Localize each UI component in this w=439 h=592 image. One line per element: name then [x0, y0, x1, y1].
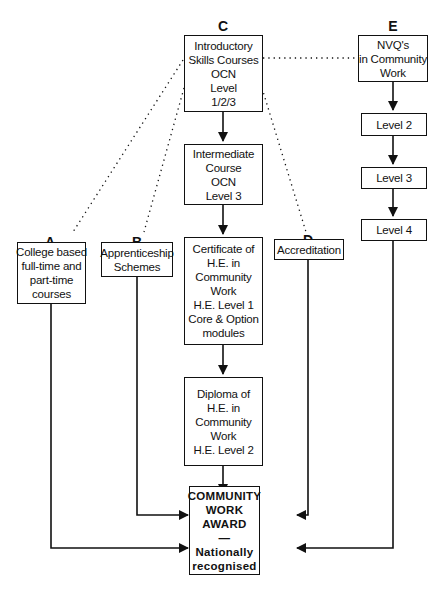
box-introductory-skills-courses: Introductory Skills Courses OCN Level 1/…	[184, 35, 263, 112]
box-nvq-level-3: Level 3	[361, 167, 427, 189]
box-diploma-he: Diploma of H.E. in Community Work H.E. L…	[184, 377, 263, 466]
column-label-e: E	[383, 18, 403, 34]
box-accreditation: Accreditation	[274, 239, 344, 260]
box-apprenticeship-schemes: Apprenticeship Schemes	[101, 242, 173, 277]
box-college-courses: College based full-time and part-time co…	[17, 242, 86, 304]
box-nvq-level-4: Level 4	[361, 219, 427, 241]
column-label-c: C	[213, 18, 233, 34]
box-intermediate-course: Intermediate Course OCN Level 3	[184, 144, 263, 205]
box-nvqs-community-work: NVQ's in Community Work	[358, 35, 428, 82]
box-nvq-level-2: Level 2	[361, 113, 427, 136]
box-community-work-award: COMMUNITY WORK AWARD — Nationally recogn…	[189, 486, 260, 575]
box-certificate-he: Certificate of H.E. in Community Work H.…	[184, 237, 263, 345]
